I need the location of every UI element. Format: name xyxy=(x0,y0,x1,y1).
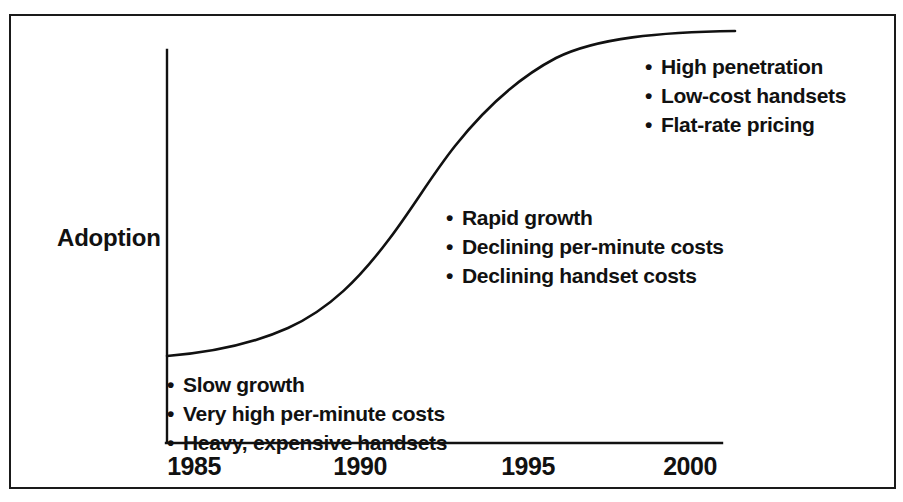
annotation-text: Declining handset costs xyxy=(462,261,697,290)
annotation-mature-phase: • High penetration • Low-cost handsets •… xyxy=(645,52,846,139)
annotation-growth-phase: • Rapid growth • Declining per-minute co… xyxy=(446,203,724,290)
bullet-icon: • xyxy=(167,428,179,457)
annotation-text: Heavy, expensive handsets xyxy=(183,428,447,457)
adoption-s-curve-figure: Adoption 1985 1990 1995 2000 • High pene… xyxy=(0,0,903,502)
annotation-bullet-line: • Declining per-minute costs xyxy=(446,232,724,261)
bullet-icon: • xyxy=(645,81,657,110)
x-tick-label-2000: 2000 xyxy=(659,452,721,481)
annotation-text: Declining per-minute costs xyxy=(462,232,724,261)
annotation-bullet-line: • Declining handset costs xyxy=(446,261,724,290)
bullet-icon: • xyxy=(446,261,458,290)
annotation-bullet-line: • Heavy, expensive handsets xyxy=(167,428,447,457)
annotation-text: Slow growth xyxy=(183,370,305,399)
annotation-text: Flat-rate pricing xyxy=(661,110,815,139)
annotation-bullet-line: • High penetration xyxy=(645,52,846,81)
annotation-bullet-line: • Flat-rate pricing xyxy=(645,110,846,139)
annotation-early-phase: • Slow growth • Very high per-minute cos… xyxy=(167,370,447,457)
annotation-text: Very high per-minute costs xyxy=(183,399,445,428)
annotation-bullet-line: • Low-cost handsets xyxy=(645,81,846,110)
bullet-icon: • xyxy=(645,110,657,139)
bullet-icon: • xyxy=(446,203,458,232)
bullet-icon: • xyxy=(167,399,179,428)
bullet-icon: • xyxy=(167,370,179,399)
annotation-text: Low-cost handsets xyxy=(661,81,846,110)
bullet-icon: • xyxy=(645,52,657,81)
x-tick-label-1995: 1995 xyxy=(497,452,559,481)
annotation-text: Rapid growth xyxy=(462,203,593,232)
bullet-icon: • xyxy=(446,232,458,261)
annotation-bullet-line: • Very high per-minute costs xyxy=(167,399,447,428)
annotation-text: High penetration xyxy=(661,52,823,81)
annotation-bullet-line: • Slow growth xyxy=(167,370,447,399)
annotation-bullet-line: • Rapid growth xyxy=(446,203,724,232)
y-axis-title: Adoption xyxy=(57,224,161,252)
